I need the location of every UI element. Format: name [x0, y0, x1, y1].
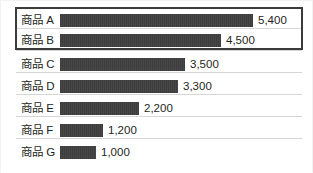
chart-row[interactable]: 商品 G 1,000 — [0, 141, 313, 163]
horizontal-bar-chart: 商品 A 5,400 商品 B 4,500 商品 C 3,500 — [0, 0, 313, 173]
bar-value-label: 2,200 — [144, 97, 173, 119]
bar-value-label: 1,000 — [101, 141, 130, 163]
bar-value-label: 3,500 — [190, 53, 219, 75]
bar[interactable] — [60, 58, 185, 71]
bar-container: 1,000 — [60, 141, 130, 163]
bar-container: 1,200 — [60, 119, 137, 141]
bar[interactable] — [60, 80, 178, 93]
category-label: 商品 C — [21, 53, 55, 75]
bar-value-label: 4,500 — [226, 29, 255, 51]
chart-row[interactable]: 商品 A 5,400 — [0, 9, 313, 31]
bar-container: 2,200 — [60, 97, 173, 119]
bar-container: 3,300 — [60, 75, 212, 97]
category-label: 商品 F — [21, 119, 53, 141]
category-label: 商品 E — [21, 97, 54, 119]
chart-canvas: 商品 A 5,400 商品 B 4,500 商品 C 3,500 — [0, 0, 313, 173]
bar[interactable] — [60, 146, 96, 159]
bar-value-label: 1,200 — [108, 119, 137, 141]
chart-row[interactable]: 商品 F 1,200 — [0, 119, 313, 141]
chart-row[interactable]: 商品 E 2,200 — [0, 97, 313, 119]
bar[interactable] — [60, 34, 221, 47]
category-label: 商品 B — [21, 29, 54, 51]
bar-container: 5,400 — [60, 9, 287, 31]
bar-container: 4,500 — [60, 29, 255, 51]
bar[interactable] — [60, 102, 139, 115]
category-label: 商品 G — [21, 141, 55, 163]
chart-row[interactable]: 商品 B 4,500 — [0, 29, 313, 51]
category-label: 商品 A — [21, 9, 54, 31]
chart-row[interactable]: 商品 D 3,300 — [0, 75, 313, 97]
bar[interactable] — [60, 124, 103, 137]
chart-row[interactable]: 商品 C 3,500 — [0, 53, 313, 75]
category-label: 商品 D — [21, 75, 55, 97]
bar[interactable] — [60, 14, 253, 27]
bar-value-label: 5,400 — [258, 9, 287, 31]
bar-container: 3,500 — [60, 53, 219, 75]
bar-value-label: 3,300 — [183, 75, 212, 97]
